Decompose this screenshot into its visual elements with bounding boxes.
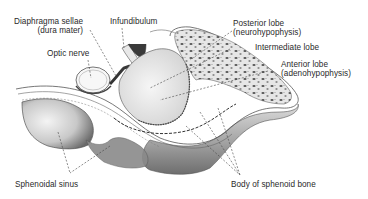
label-body-of-sphenoid-bone: Body of sphenoid bone: [231, 181, 316, 190]
label-optic-nerve: Optic nerve: [47, 50, 89, 59]
label-intermediate-lobe: Intermediate lobe: [255, 44, 319, 53]
label-anterior-lobe: Anterior lobe (adenohypophysis): [281, 61, 351, 79]
label-sphenoidal-sinus: Sphenoidal sinus: [15, 181, 78, 190]
sphenoidal-sinus-shape: [22, 99, 93, 149]
label-diaphragma-sellae: Diaphragma sellae (dura mater): [14, 18, 83, 36]
label-posterior-lobe: Posterior lobe (neurohypophysis): [233, 20, 301, 38]
label-infundibulum: Infundibulum: [110, 18, 157, 27]
anterior-lobe-shape: [119, 49, 190, 125]
anatomy-diagram: Diaphragma sellae (dura mater) Infundibu…: [0, 0, 368, 199]
optic-nerve-shape: [76, 67, 110, 93]
